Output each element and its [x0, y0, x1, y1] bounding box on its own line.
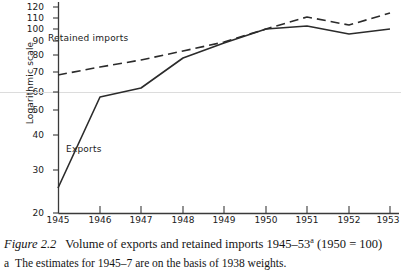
series-line-exports: [58, 26, 390, 188]
figure-caption: Figure 2.2Volume of exports and retained…: [4, 236, 398, 252]
figure-2-2: Logarithmic scale 120 110 100 90 80 70 6…: [0, 0, 401, 275]
series-line-retained-imports: [58, 13, 390, 75]
figure-caption-text: Volume of exports and retained imports 1…: [65, 237, 310, 251]
figure-footnote: aThe estimates for 1945–7 are on the bas…: [4, 257, 398, 269]
figure-number: Figure 2.2: [4, 237, 56, 251]
y-tick-marks: [53, 7, 59, 213]
footnote-marker: a: [4, 257, 9, 269]
chart-svg: [0, 0, 401, 228]
footnote-text: The estimates for 1945–7 are on the basi…: [15, 257, 286, 269]
figure-caption-tail: (1950 = 100): [317, 237, 382, 251]
chart-plot-area: Logarithmic scale 120 110 100 90 80 70 6…: [0, 0, 401, 228]
x-tick-marks: [100, 206, 390, 214]
caption-superscript: a: [310, 236, 314, 245]
